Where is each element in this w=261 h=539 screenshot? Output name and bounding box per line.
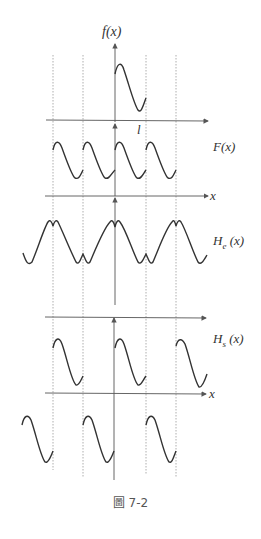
label-Hs-main: H xyxy=(213,331,222,346)
curves xyxy=(22,64,207,462)
label-x-axis-1: x xyxy=(210,188,216,204)
label-F: F(x) xyxy=(213,139,235,155)
label-f: f(x) xyxy=(102,24,121,40)
guide-lines xyxy=(53,55,176,478)
label-x-axis-2: x xyxy=(209,386,215,402)
y-axes xyxy=(114,44,115,480)
figure-canvas xyxy=(0,0,261,539)
label-He: He (x) xyxy=(213,233,244,251)
figure-caption: 圖 7-2 xyxy=(0,493,261,510)
label-Hs: Hs (x) xyxy=(213,331,244,349)
label-He-arg: (x) xyxy=(226,233,244,248)
label-He-main: H xyxy=(213,233,222,248)
label-Hs-arg: (x) xyxy=(226,331,244,346)
label-tick-l: l xyxy=(137,122,141,138)
